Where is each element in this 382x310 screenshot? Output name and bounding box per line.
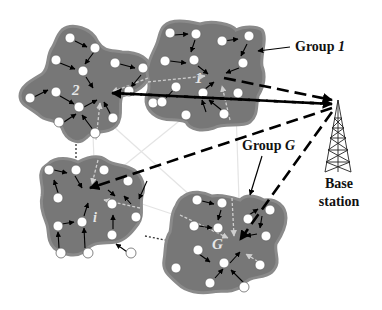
base-station-label-line1: Base: [325, 176, 353, 191]
group-G-pointer: [250, 156, 262, 195]
network-diagram: 2 1 i G: [0, 0, 382, 310]
base-station-label-line2: station: [319, 194, 360, 209]
group-1-label: Group 1: [295, 39, 345, 54]
group-2-id: 2: [71, 82, 80, 98]
group-G-id: G: [212, 236, 223, 252]
group-i-id: i: [93, 210, 97, 225]
group-2-cluster: 2: [20, 26, 150, 141]
group-1-id: 1: [195, 70, 203, 86]
group-G-label: Group G: [242, 138, 295, 153]
base-station-tower-icon: [325, 100, 351, 172]
